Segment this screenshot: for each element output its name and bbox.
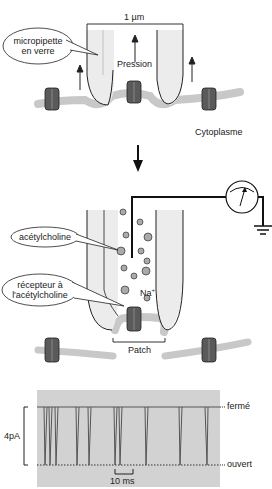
- pipette-callout: micropipette en verre: [12, 36, 64, 56]
- patch-label: Patch: [128, 346, 151, 355]
- scale-bracket: [87, 24, 183, 30]
- cytoplasm-label: Cytoplasme: [195, 128, 243, 137]
- receptor-callout: récepteur à l'acétylcholine: [4, 280, 76, 300]
- time-scale-label: 10 ms: [110, 477, 135, 486]
- pressure-label: Pression: [117, 60, 152, 69]
- ammeter-icon: [226, 181, 258, 213]
- arrow-down-icon: [133, 145, 143, 172]
- trace-background: [37, 390, 220, 487]
- patch-bracket: [113, 338, 165, 342]
- receptor-channel-icon: [127, 307, 141, 331]
- scale-label: 1 µm: [124, 13, 144, 22]
- amplitude-label: 4pA: [4, 432, 20, 441]
- acetylcholine-callout: acétylcholine: [14, 232, 76, 242]
- open-state-label: ouvert: [227, 460, 252, 469]
- patch-clamp-diagram: [0, 0, 272, 489]
- sodium-ion-label: Na+: [140, 287, 155, 298]
- closed-state-label: fermé: [227, 402, 250, 411]
- ground-icon: [254, 226, 272, 234]
